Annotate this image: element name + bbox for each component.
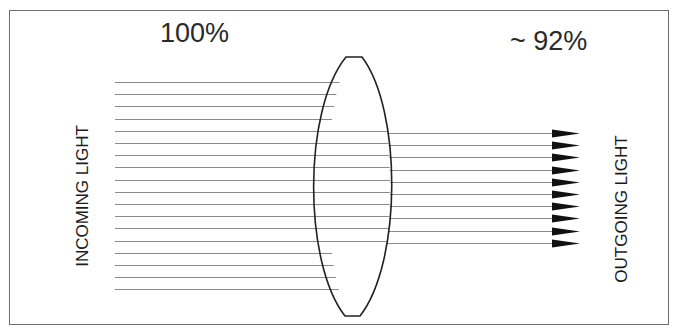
arrowhead-icon: [552, 191, 580, 199]
arrowhead-icon: [552, 142, 580, 150]
outgoing-percent-label: ~ 92%: [510, 26, 587, 57]
outgoing-light-label: OUTGOING LIGHT: [612, 124, 632, 294]
incoming-percent-label: 100%: [160, 18, 229, 49]
arrowhead-icon: [552, 240, 580, 248]
outgoing-rays: [387, 134, 552, 244]
lens-outline: [314, 57, 392, 316]
incoming-light-label: INCOMING LIGHT: [73, 116, 93, 276]
arrowhead-icon: [552, 130, 580, 138]
arrowhead-icon: [552, 228, 580, 236]
arrowhead-icon: [552, 179, 580, 187]
arrowhead-icon: [552, 215, 580, 223]
incoming-rays: [115, 83, 390, 290]
arrowheads: [552, 130, 580, 248]
arrowhead-icon: [552, 167, 580, 175]
arrowhead-icon: [552, 154, 580, 162]
arrowhead-icon: [552, 203, 580, 211]
